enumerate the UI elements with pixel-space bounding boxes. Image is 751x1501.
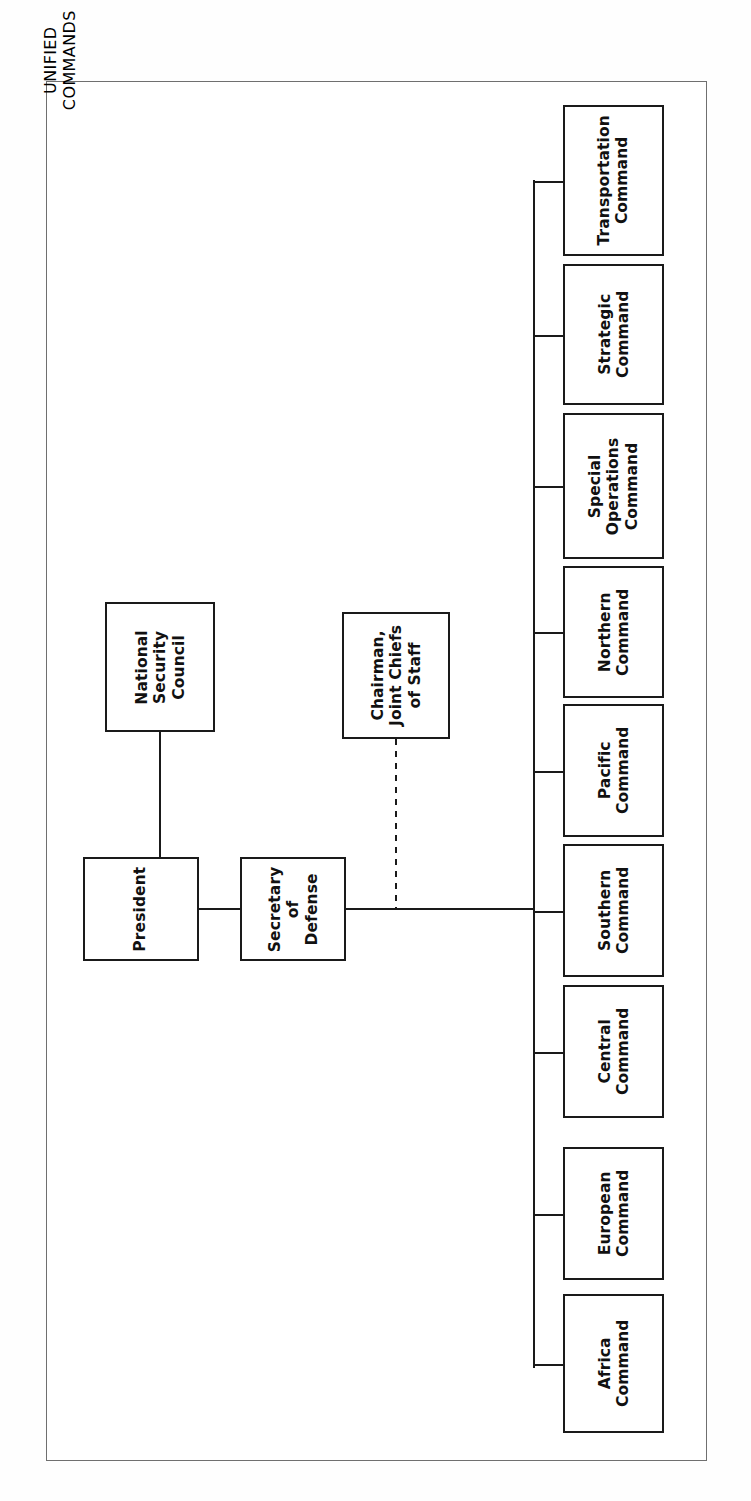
node-label: Southern Command xyxy=(595,867,632,955)
unified-commands-text: UNIFIED COMMANDS xyxy=(41,10,79,110)
connector-spine-to-command xyxy=(533,632,563,634)
node-unified-command: Strategic Command xyxy=(563,264,664,405)
node-label: Special Operations Command xyxy=(586,437,641,535)
node-secretary-of-defense: Secretary of Defense xyxy=(240,857,346,961)
node-unified-command: Pacific Command xyxy=(563,704,664,837)
connector-cjcs-advisory-dashed xyxy=(395,739,397,909)
connector-secdef-to-unified-commands xyxy=(345,908,535,910)
connector-nsc-to-president xyxy=(159,731,161,858)
connector-spine-to-command xyxy=(533,486,563,488)
connector-spine-to-command xyxy=(533,181,563,183)
node-president: President xyxy=(83,857,199,961)
node-unified-command: Special Operations Command xyxy=(563,413,664,559)
node-label: Central Command xyxy=(595,1008,632,1096)
connector-spine-to-command xyxy=(533,1214,563,1216)
node-unified-command: European Command xyxy=(563,1147,664,1280)
node-label: Strategic Command xyxy=(595,291,632,379)
figure-page: National Security Council President Secr… xyxy=(0,0,751,1501)
node-label: Secretary of Defense xyxy=(266,858,321,960)
connector-spine-to-command xyxy=(533,911,563,913)
connector-spine-to-command xyxy=(533,335,563,337)
node-unified-command: Africa Command xyxy=(563,1294,664,1433)
node-unified-command: Southern Command xyxy=(563,844,664,977)
node-national-security-council: National Security Council xyxy=(105,602,215,732)
node-label: Chairman, Joint Chiefs of Staff xyxy=(369,625,424,726)
node-label: Africa Command xyxy=(595,1320,632,1408)
node-label: Northern Command xyxy=(595,588,632,676)
figure-caption: Figure 7. U.S. National Defense Command … xyxy=(648,1090,751,1130)
connector-president-to-secdef xyxy=(198,908,241,910)
node-unified-command: Transportation Command xyxy=(563,105,664,256)
node-label: European Command xyxy=(595,1170,632,1258)
node-label: Pacific Command xyxy=(595,727,632,815)
connector-spine-to-command xyxy=(533,771,563,773)
connector-spine-to-command xyxy=(533,1364,563,1366)
unified-commands-spine xyxy=(533,180,535,1368)
node-unified-command: Northern Command xyxy=(563,566,664,698)
node-label: Transportation Command xyxy=(595,115,632,245)
connector-spine-to-command xyxy=(533,1052,563,1054)
node-label: President xyxy=(132,866,150,951)
node-chairman-joint-chiefs-of-staff: Chairman, Joint Chiefs of Staff xyxy=(342,612,450,739)
node-label: National Security Council xyxy=(133,630,188,704)
